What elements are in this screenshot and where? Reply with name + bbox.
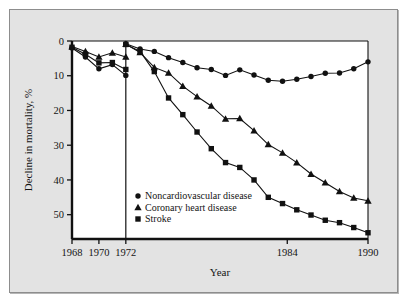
data-point-circle — [294, 77, 299, 82]
data-point-circle — [194, 65, 199, 70]
data-point-square — [137, 49, 142, 54]
data-point-square — [280, 201, 285, 206]
data-point-square — [96, 60, 101, 65]
legend-label: Coronary heart disease — [145, 202, 237, 213]
data-point-circle — [152, 49, 157, 54]
data-point-square — [337, 220, 342, 225]
x-tick-label: 1984 — [277, 247, 299, 258]
legend-label: Noncardiovascular disease — [145, 190, 252, 201]
x-tick-label: 1972 — [115, 247, 136, 258]
data-point-circle — [365, 59, 370, 64]
data-point-circle — [266, 78, 271, 83]
legend-label: Stroke — [145, 213, 172, 224]
data-point-square — [180, 112, 185, 117]
data-point-circle — [280, 79, 285, 84]
data-point-circle — [96, 66, 101, 71]
data-point-square — [209, 146, 214, 151]
x-axis-title: Year — [210, 266, 231, 278]
data-point-square — [294, 207, 299, 212]
data-point-circle — [251, 72, 256, 77]
legend-marker-square — [135, 216, 140, 221]
data-point-square — [110, 60, 115, 65]
data-point-square — [323, 218, 328, 223]
data-point-circle — [180, 60, 185, 65]
data-point-square — [223, 160, 228, 165]
y-tick-label: 10 — [54, 70, 65, 81]
mortality-decline-line-chart: 0102030405019681970197219841990YearDecli… — [10, 10, 399, 294]
data-point-circle — [351, 66, 356, 71]
data-point-circle — [166, 55, 171, 60]
y-tick-label: 30 — [54, 140, 65, 151]
data-point-square — [194, 129, 199, 134]
data-point-square — [69, 45, 74, 50]
figure-page: 0102030405019681970197219841990YearDecli… — [0, 0, 407, 302]
data-point-circle — [209, 67, 214, 72]
data-point-square — [237, 165, 242, 170]
y-tick-label: 40 — [54, 175, 65, 186]
data-point-square — [83, 52, 88, 57]
data-point-circle — [223, 73, 228, 78]
data-point-circle — [337, 70, 342, 75]
data-point-circle — [323, 71, 328, 76]
data-point-square — [308, 212, 313, 217]
data-point-square — [351, 225, 356, 230]
data-point-square — [365, 230, 370, 235]
y-tick-label: 20 — [54, 105, 65, 116]
figure-panel: 0102030405019681970197219841990YearDecli… — [9, 9, 398, 293]
data-point-square — [166, 95, 171, 100]
data-point-circle — [237, 67, 242, 72]
x-tick-label: 1970 — [88, 247, 109, 258]
data-point-square — [123, 67, 128, 72]
y-tick-label: 0 — [59, 36, 64, 47]
data-point-square — [266, 195, 271, 200]
data-point-circle — [123, 73, 128, 78]
data-point-square — [251, 177, 256, 182]
legend-item: Noncardiovascular disease — [135, 190, 252, 201]
y-tick-label: 50 — [54, 209, 65, 220]
data-point-square — [123, 42, 128, 47]
data-point-circle — [308, 74, 313, 79]
legend-marker-circle — [135, 193, 140, 198]
y-axis-title: Decline in mortality, % — [22, 89, 34, 192]
x-tick-label: 1990 — [358, 247, 379, 258]
legend-item: Coronary heart disease — [134, 202, 237, 213]
data-point-square — [152, 69, 157, 74]
x-tick-label: 1968 — [62, 247, 83, 258]
